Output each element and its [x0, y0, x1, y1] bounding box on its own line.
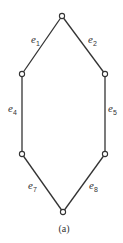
node-bottom: [60, 209, 65, 214]
edge-label-e5: e5: [108, 102, 117, 116]
edge-label-e4: e4: [8, 102, 17, 116]
edge-e2: [62, 16, 105, 74]
edge-label-e8: e8: [89, 179, 98, 193]
node-right-lower: [102, 151, 107, 156]
node-left-lower: [19, 151, 24, 156]
edge-label-e1: e1: [31, 33, 40, 47]
edge-e1: [22, 16, 62, 74]
node-right-upper: [102, 71, 107, 76]
figure-caption: (a): [58, 223, 69, 235]
edge-label-e7: e7: [28, 179, 37, 193]
node-top: [59, 13, 64, 18]
edge-e8: [63, 154, 105, 212]
edge-label-e2: e2: [88, 33, 97, 47]
graph-diagram: e1 e2 e4 e5 e7 e8 (a): [0, 0, 123, 243]
node-left-upper: [19, 71, 24, 76]
